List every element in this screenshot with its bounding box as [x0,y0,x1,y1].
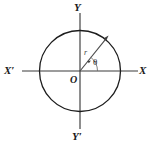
origin-label: O [70,75,77,85]
axis-label-y-negative: Y′ [72,131,82,142]
polar-coordinate-figure: Y Y′ X X′ O r θ [0,0,155,150]
axis-label-x-positive: X [139,65,146,76]
radius-label: r [84,49,87,57]
angle-label: θ [93,58,97,67]
axis-label-y-positive: Y [74,2,81,13]
figure-canvas [0,0,155,150]
axis-label-x-negative: X′ [4,65,14,76]
